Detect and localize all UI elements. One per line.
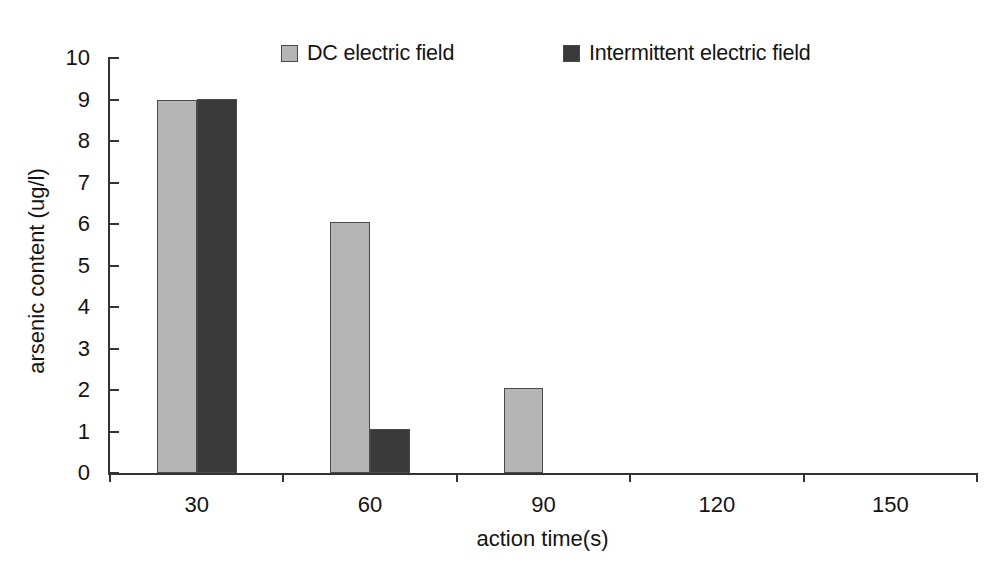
bar <box>197 99 237 473</box>
x-axis-tick <box>629 473 631 482</box>
x-axis-tick-label: 30 <box>184 492 208 518</box>
y-axis-tick <box>110 99 119 101</box>
y-axis-tick <box>110 265 119 267</box>
x-axis-line <box>108 473 977 475</box>
bar <box>157 100 197 474</box>
y-axis-tick <box>110 223 119 225</box>
bar <box>330 222 370 473</box>
x-axis-tick <box>109 473 111 482</box>
y-axis-tick <box>110 389 119 391</box>
y-axis-tick <box>110 348 119 350</box>
y-axis-title: arsenic content (ug/l) <box>24 71 50 471</box>
x-axis-tick-label: 90 <box>531 492 555 518</box>
plot-area: 012345678910 306090120150 arsenic conten… <box>0 0 1002 581</box>
y-axis-tick <box>110 431 119 433</box>
bar <box>370 429 410 473</box>
x-axis-tick-label: 150 <box>872 492 909 518</box>
x-axis-tick <box>976 473 978 482</box>
x-axis-tick-label: 120 <box>699 492 736 518</box>
x-axis-tick <box>803 473 805 482</box>
y-axis-tick <box>110 57 119 59</box>
bar-chart: DC electric field Intermittent electric … <box>0 0 1002 581</box>
x-axis-tick-label: 60 <box>358 492 382 518</box>
x-axis-tick <box>456 473 458 482</box>
y-axis-tick <box>110 182 119 184</box>
y-axis-tick <box>110 472 119 474</box>
y-axis-tick <box>110 306 119 308</box>
bar <box>504 388 544 473</box>
x-axis-title: action time(s) <box>108 526 977 552</box>
y-axis-tick <box>110 140 119 142</box>
y-axis-tick-label: 10 <box>18 45 90 71</box>
x-axis-tick <box>282 473 284 482</box>
